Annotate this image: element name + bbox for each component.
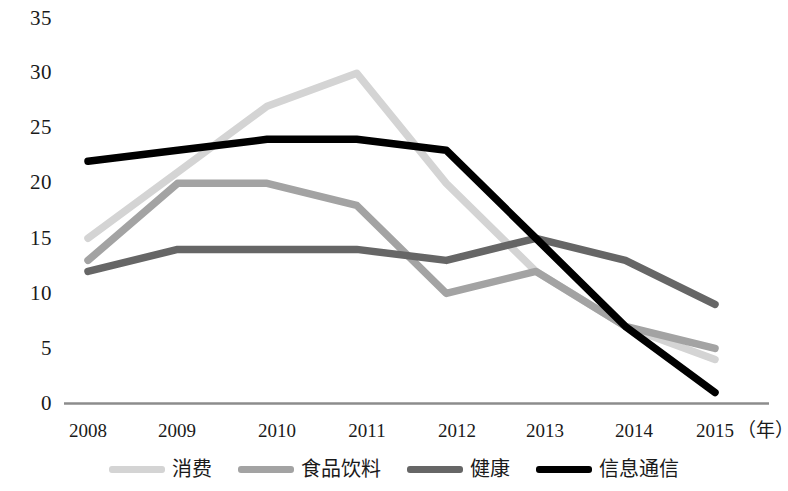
legend-label-food-beverage: 食品饮料 [301, 459, 381, 479]
x-tick-label-2012: 2012 [438, 421, 476, 440]
x-tick-label-2015: 2015 [696, 421, 734, 440]
legend-item-health[interactable]: 健康 [407, 459, 510, 479]
x-tick-label-2008: 2008 [69, 421, 107, 440]
legend-swatch-icon-food-beverage [238, 466, 294, 473]
x-tick-label-2009: 2009 [158, 421, 196, 440]
legend-label-info-communication: 信息通信 [599, 459, 679, 479]
line-chart: 35 30 25 20 15 10 5 0 2008 2009 2010 201… [0, 0, 788, 491]
x-tick-label-2014: 2014 [615, 421, 653, 440]
legend-swatch-icon-info-communication [536, 466, 592, 473]
x-axis-tick-labels: 2008 2009 2010 2011 2012 2013 2014 2015 … [0, 0, 788, 491]
x-axis-unit-label: （年） [737, 421, 788, 440]
legend-item-consumption[interactable]: 消费 [109, 459, 212, 479]
legend-label-consumption: 消费 [172, 459, 212, 479]
x-tick-label-2013: 2013 [526, 421, 564, 440]
legend-label-health: 健康 [470, 459, 510, 479]
legend-item-info-communication[interactable]: 信息通信 [536, 459, 679, 479]
x-tick-label-2010: 2010 [258, 421, 296, 440]
x-tick-label-2011: 2011 [348, 421, 385, 440]
legend-swatch-icon-consumption [109, 466, 165, 473]
legend-swatch-icon-health [407, 466, 463, 473]
chart-legend: 消费 食品饮料 健康 信息通信 [0, 452, 788, 486]
legend-item-food-beverage[interactable]: 食品饮料 [238, 459, 381, 479]
